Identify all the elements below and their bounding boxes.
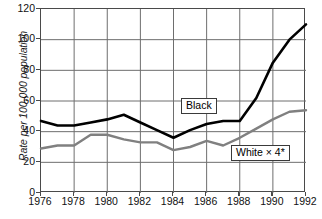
series-label-black: Black — [181, 98, 217, 114]
y-tick-label: 40 — [2, 125, 35, 135]
y-tick-label: 100 — [2, 33, 35, 43]
y-tick-label: 80 — [2, 64, 35, 74]
data-series-layer — [41, 9, 306, 193]
plot-area — [40, 8, 305, 192]
y-tick-label: 20 — [2, 156, 35, 166]
series-line-black — [41, 24, 306, 137]
chart-container: Rate per 100,000 population 020406080100… — [0, 0, 322, 219]
y-tick-label: 60 — [2, 95, 35, 105]
y-tick-label: 120 — [2, 3, 35, 13]
series-label-white: White × 4* — [231, 145, 290, 161]
x-tick-label: 1992 — [285, 196, 322, 207]
